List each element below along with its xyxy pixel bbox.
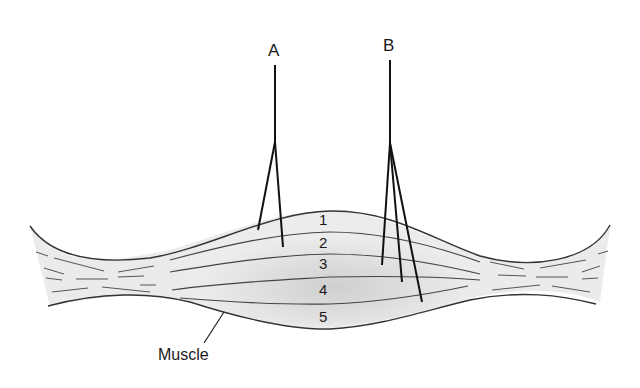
muscle-label-pointer: [204, 312, 224, 343]
muscle-diagram: [0, 0, 640, 388]
layer-3-label: 3: [319, 256, 327, 271]
electrode-b-label: B: [383, 37, 394, 54]
layer-4-label: 4: [319, 282, 327, 297]
diagram-canvas: A B 1 2 3 4 5 Muscle: [0, 0, 640, 388]
layer-2-label: 2: [319, 235, 327, 250]
electrode-a-label: A: [268, 42, 279, 59]
muscle-label: Muscle: [158, 347, 209, 363]
layer-1-label: 1: [319, 212, 327, 227]
layer-5-label: 5: [319, 309, 327, 324]
